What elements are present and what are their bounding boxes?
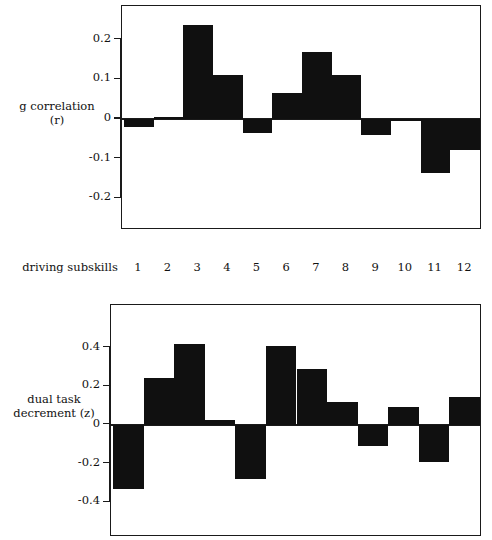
bar bbox=[205, 420, 236, 425]
bar bbox=[144, 378, 175, 425]
chart-panel-g-correlation bbox=[121, 5, 481, 229]
bar bbox=[358, 425, 389, 446]
y-axis-tick-label: 0.4 bbox=[58, 341, 100, 353]
y-axis-title-line1: dual task bbox=[2, 392, 106, 406]
category-axis-label: 11 bbox=[420, 261, 450, 274]
bar bbox=[419, 425, 450, 462]
y-axis-tick-label: 0.2 bbox=[58, 379, 100, 391]
category-axis-title: driving subskills bbox=[14, 261, 126, 274]
y-axis-tick-label: -0.1 bbox=[69, 152, 111, 164]
y-axis-tick-label: 0 bbox=[58, 418, 100, 430]
y-axis-tick-label: 0 bbox=[69, 112, 111, 124]
y-axis-tick-label: 0.2 bbox=[69, 33, 111, 45]
bar bbox=[332, 75, 362, 119]
bar bbox=[266, 346, 297, 425]
y-axis-title-dual-task-decrement: dual task decrement (z) bbox=[2, 392, 106, 420]
plot-area-dual-task-decrement bbox=[111, 305, 480, 535]
plot-area-g-correlation bbox=[122, 6, 480, 228]
category-axis: driving subskills 123456789101112 bbox=[0, 258, 492, 280]
category-axis-label: 1 bbox=[123, 261, 153, 274]
bar bbox=[154, 117, 184, 119]
y-axis-tick-label: -0.2 bbox=[69, 191, 111, 203]
bar bbox=[235, 425, 266, 479]
category-axis-label: 5 bbox=[242, 261, 272, 274]
figure-root: g correlation (r) 0.20.10-0.1-0.2 drivin… bbox=[0, 0, 492, 540]
category-axis-label: 6 bbox=[271, 261, 301, 274]
y-axis-spine bbox=[109, 347, 110, 502]
bar bbox=[174, 344, 205, 425]
bar bbox=[272, 93, 302, 119]
bar bbox=[302, 52, 332, 119]
bar bbox=[113, 425, 144, 489]
category-axis-label: 7 bbox=[301, 261, 331, 274]
category-axis-label: 12 bbox=[449, 261, 479, 274]
y-axis-title-line1: g correlation bbox=[8, 99, 106, 113]
bar bbox=[450, 119, 480, 150]
bar bbox=[388, 407, 419, 425]
category-axis-label: 3 bbox=[182, 261, 212, 274]
y-axis-tick-label: -0.4 bbox=[58, 495, 100, 507]
bar bbox=[391, 119, 421, 121]
y-axis-tick-label: 0.1 bbox=[69, 72, 111, 84]
bar bbox=[449, 397, 480, 425]
bar bbox=[124, 119, 154, 127]
category-axis-label: 9 bbox=[360, 261, 390, 274]
bar bbox=[243, 119, 273, 133]
bar bbox=[183, 25, 213, 119]
y-axis-tick-label: -0.2 bbox=[58, 457, 100, 469]
bar bbox=[327, 402, 358, 425]
bar bbox=[361, 119, 391, 135]
category-axis-label: 8 bbox=[331, 261, 361, 274]
category-axis-label: 10 bbox=[390, 261, 420, 274]
category-axis-label: 4 bbox=[212, 261, 242, 274]
category-axis-label: 2 bbox=[153, 261, 183, 274]
bar bbox=[421, 119, 451, 173]
chart-panel-dual-task-decrement bbox=[110, 304, 481, 536]
y-axis-spine bbox=[120, 39, 121, 198]
bar bbox=[297, 369, 328, 425]
bar bbox=[213, 75, 243, 119]
